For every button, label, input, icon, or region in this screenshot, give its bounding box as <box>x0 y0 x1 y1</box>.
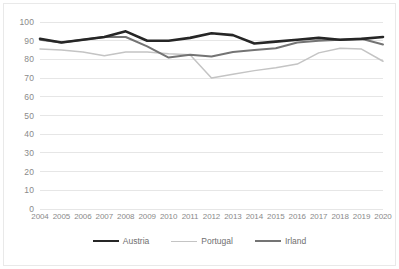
y-tick-label: 70 <box>24 73 34 83</box>
chart-legend: AustriaPortugalIrland <box>0 236 399 246</box>
x-tick-label: 2005 <box>53 212 70 221</box>
legend-swatch-icon <box>255 240 281 242</box>
x-tick-label: 2015 <box>267 212 284 221</box>
x-tick-label: 2019 <box>353 212 370 221</box>
x-tick-label: 2009 <box>138 212 155 221</box>
x-tick-label: 2008 <box>117 212 134 221</box>
legend-item-portugal[interactable]: Portugal <box>171 236 233 246</box>
x-tick-label: 2004 <box>31 212 48 221</box>
x-axis: 2004200520062007200820092010201120122013… <box>40 212 383 228</box>
y-tick-label: 60 <box>24 92 34 102</box>
x-tick-label: 2017 <box>310 212 327 221</box>
x-tick-label: 2020 <box>374 212 391 221</box>
y-axis: 1009080706050403020100 <box>0 0 40 220</box>
y-tick-label: 10 <box>24 185 34 195</box>
x-tick-label: 2011 <box>182 212 199 221</box>
x-tick-label: 2013 <box>224 212 241 221</box>
x-tick-label: 2018 <box>331 212 348 221</box>
y-tick-label: 40 <box>24 129 34 139</box>
legend-item-austria[interactable]: Austria <box>93 236 149 246</box>
legend-label: Irland <box>285 236 306 246</box>
legend-label: Austria <box>123 236 149 246</box>
y-tick-label: 20 <box>24 167 34 177</box>
y-tick-label: 90 <box>24 36 34 46</box>
series-lines <box>40 22 383 209</box>
legend-label: Portugal <box>201 236 233 246</box>
y-tick-label: 50 <box>24 111 34 121</box>
series-line-portugal <box>40 48 383 78</box>
x-tick-label: 2007 <box>96 212 113 221</box>
series-line-austria <box>40 31 383 43</box>
legend-swatch-icon <box>171 241 197 242</box>
plot-area <box>40 22 383 209</box>
legend-swatch-icon <box>93 240 119 242</box>
x-tick-label: 2010 <box>160 212 177 221</box>
y-tick-label: 100 <box>20 17 34 27</box>
y-tick-label: 80 <box>24 54 34 64</box>
x-tick-label: 2012 <box>203 212 220 221</box>
x-tick-label: 2006 <box>74 212 91 221</box>
x-tick-label: 2014 <box>246 212 263 221</box>
line-chart: 1009080706050403020100 20042005200620072… <box>0 0 399 269</box>
x-tick-label: 2016 <box>289 212 306 221</box>
y-tick-label: 30 <box>24 148 34 158</box>
legend-item-irland[interactable]: Irland <box>255 236 306 246</box>
